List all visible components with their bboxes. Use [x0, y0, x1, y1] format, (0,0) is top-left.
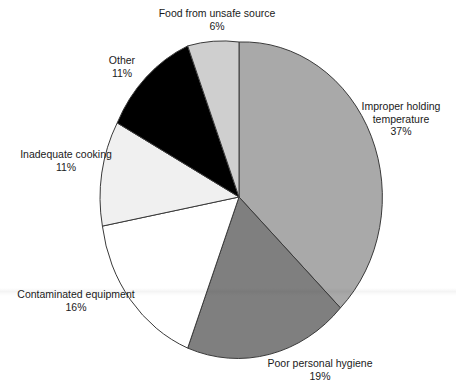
pie-label-name: Contaminated equipment — [2, 288, 150, 301]
pie-chart — [0, 0, 456, 391]
pie-label-value: 6% — [127, 20, 307, 33]
pie-label-name: Poor personal hygiene — [240, 357, 400, 370]
pie-label-inadequate-cooking: Inadequate cooking 11% — [4, 148, 128, 174]
pie-label-name: Inadequate cooking — [4, 148, 128, 161]
pie-label-contaminated-equipment: Contaminated equipment 16% — [2, 288, 150, 314]
pie-label-food-from-unsafe-source: Food from unsafe source 6% — [127, 7, 307, 33]
pie-label-value: 11% — [4, 161, 128, 174]
pie-label-name: Food from unsafe source — [127, 7, 307, 20]
pie-label-improper-holding-temperature: Improper holding temperature 37% — [346, 100, 456, 138]
pie-label-value: 11% — [82, 67, 162, 80]
pie-label-value: 37% — [346, 125, 456, 138]
pie-label-name-line2: temperature — [346, 113, 456, 126]
pie-label-value: 19% — [240, 370, 400, 383]
pie-chart-page: Food from unsafe source 6% Other 11% Ina… — [0, 0, 456, 391]
pie-label-poor-personal-hygiene: Poor personal hygiene 19% — [240, 357, 400, 383]
pie-label-value: 16% — [2, 301, 150, 314]
pie-label-name-line1: Improper holding — [346, 100, 456, 113]
pie-label-other: Other 11% — [82, 54, 162, 80]
pie-label-name: Other — [82, 54, 162, 67]
